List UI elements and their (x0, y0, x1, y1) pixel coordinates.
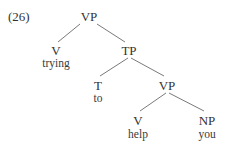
word-help: help (128, 128, 148, 140)
tree-edges (0, 0, 229, 152)
node-t: T (94, 79, 102, 92)
edge-vp2-np (169, 93, 204, 111)
word-trying: trying (42, 57, 69, 69)
node-tp: TP (121, 44, 136, 57)
edge-tp-t (100, 58, 128, 76)
node-vp-root: VP (81, 10, 98, 23)
edge-vp2-v (140, 93, 166, 111)
word-to: to (94, 92, 103, 104)
edge-vp-v (58, 24, 80, 42)
example-number: (26) (8, 10, 30, 23)
node-v-trying: V (51, 44, 60, 57)
edge-vp-tp (97, 24, 125, 42)
node-v-help: V (133, 114, 142, 127)
edge-tp-vp (131, 58, 164, 76)
word-you: you (198, 128, 215, 140)
node-np: NP (199, 114, 216, 127)
node-vp-inner: VP (159, 79, 176, 92)
